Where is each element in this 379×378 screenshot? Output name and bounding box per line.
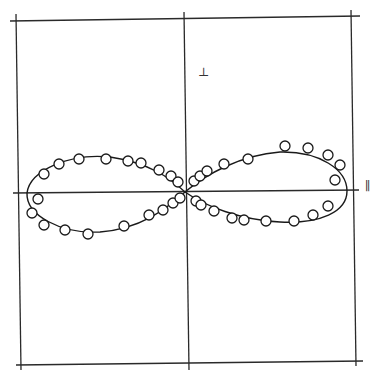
data-point-circle <box>123 156 133 166</box>
data-point-circle <box>39 220 49 230</box>
data-point-circle <box>303 143 313 153</box>
perpendicular-label: ⊥ <box>198 66 209 78</box>
data-point-circle <box>101 154 111 164</box>
data-point-circle <box>54 159 64 169</box>
data-point-circle <box>335 160 345 170</box>
parallel-label: ∥ <box>365 180 371 192</box>
data-point-circle <box>144 210 154 220</box>
data-point-circle <box>209 206 219 216</box>
data-point-circle <box>239 215 249 225</box>
data-point-circle <box>74 154 84 164</box>
data-point-circle <box>33 194 43 204</box>
data-point-circle <box>173 177 183 187</box>
data-point-circle <box>227 213 237 223</box>
data-point-circle <box>27 208 37 218</box>
data-point-circle <box>289 216 299 226</box>
frame-left <box>16 14 21 370</box>
data-point-circle <box>219 159 229 169</box>
data-point-circle <box>39 169 49 179</box>
data-point-circle <box>323 150 333 160</box>
data-point-circle <box>261 216 271 226</box>
frame-right <box>351 10 356 366</box>
data-point-circle <box>83 229 93 239</box>
data-point-circle <box>136 158 146 168</box>
data-point-circle <box>323 201 333 211</box>
data-point-circle <box>158 205 168 215</box>
data-point-circle <box>202 166 212 176</box>
data-point-circle <box>330 175 340 185</box>
data-point-circle <box>308 210 318 220</box>
data-point-circle <box>280 141 290 151</box>
data-point-circle <box>154 165 164 175</box>
data-point-circle <box>119 221 129 231</box>
data-point-circle <box>175 193 185 203</box>
data-point-circle <box>60 225 70 235</box>
data-point-circle <box>243 154 253 164</box>
frame-top <box>10 16 360 21</box>
data-point-circle <box>196 200 206 210</box>
polar-plot <box>0 0 379 378</box>
